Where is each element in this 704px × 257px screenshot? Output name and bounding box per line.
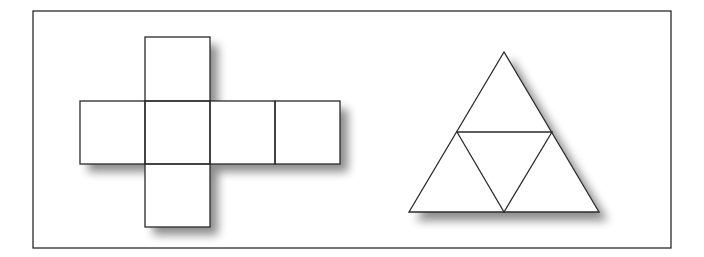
cube-face-center-fill bbox=[145, 101, 210, 164]
cube-face-top-fill bbox=[145, 37, 210, 101]
cube-face-bottom-fill bbox=[145, 164, 210, 227]
nets-diagram bbox=[0, 0, 704, 257]
diagram-canvas bbox=[0, 0, 704, 257]
cube-face-right-fill bbox=[210, 101, 275, 164]
cube-face-far-right-fill bbox=[275, 101, 340, 164]
cube-face-left-fill bbox=[80, 101, 145, 164]
